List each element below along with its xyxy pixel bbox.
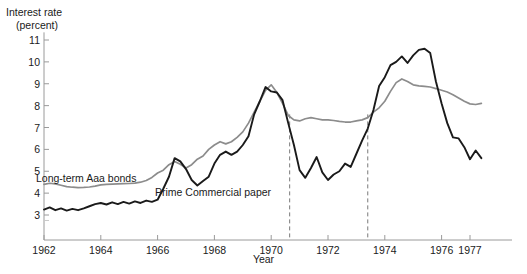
x-tick-label: 1968 bbox=[203, 244, 226, 256]
x-tick-label: 1974 bbox=[373, 244, 396, 256]
x-tick-label: 1976 bbox=[430, 244, 453, 256]
chart-container: Interest rate(percent) Year 34567891011 … bbox=[0, 0, 527, 274]
y-tick-label: 6 bbox=[18, 143, 40, 155]
y-tick-label: 11 bbox=[18, 34, 40, 46]
y-tick-label: 9 bbox=[18, 78, 40, 90]
y-tick-label: 4 bbox=[18, 187, 40, 199]
y-tick-label: 8 bbox=[18, 100, 40, 112]
chart-plot-area bbox=[0, 0, 527, 274]
y-tick-label: 7 bbox=[18, 122, 40, 134]
x-tick-label: 1966 bbox=[146, 244, 169, 256]
commercial-paper-label: Prime Commercial paper bbox=[155, 186, 271, 198]
x-tick-label: 1962 bbox=[32, 244, 55, 256]
x-tick-label: 1970 bbox=[260, 244, 283, 256]
aaa-bonds-label: Long-term Aaa bonds bbox=[36, 172, 136, 184]
x-tick-label: 1977 bbox=[458, 244, 481, 256]
x-tick-label: 1964 bbox=[89, 244, 112, 256]
y-tick-label: 10 bbox=[18, 56, 40, 68]
y-tick-label: 3 bbox=[18, 209, 40, 221]
x-tick-label: 1972 bbox=[316, 244, 339, 256]
